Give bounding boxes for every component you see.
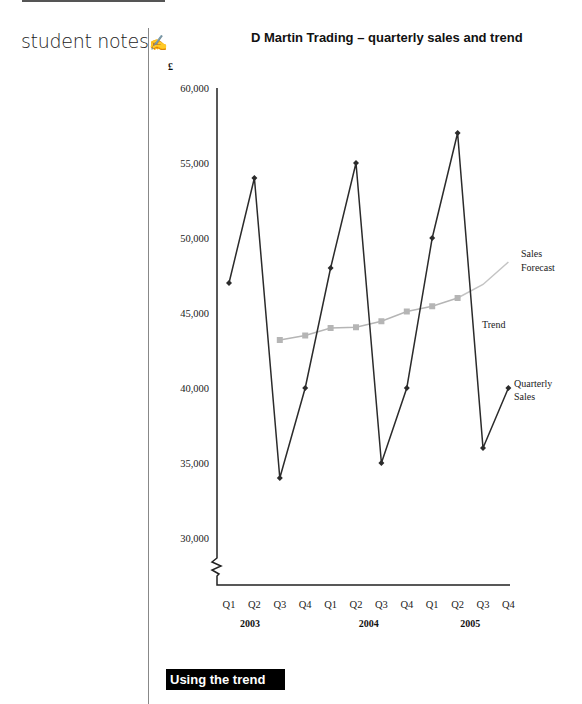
x-tick-label: Q1	[324, 599, 337, 610]
x-tick-label: Q4	[400, 599, 414, 610]
section-heading-banner: Using the trend	[166, 669, 285, 690]
series-line	[229, 133, 508, 478]
diamond-marker	[404, 385, 410, 391]
annotations: SalesForecastTrendQuarterlySales	[482, 248, 555, 402]
y-tick-label: 40,000	[180, 383, 209, 394]
y-tick-label: 50,000	[180, 233, 209, 244]
x-tick-label: Q2	[248, 599, 261, 610]
square-marker	[378, 318, 384, 324]
x-tick-label: Q3	[273, 599, 286, 610]
diamond-marker	[251, 175, 257, 181]
series-annotation: Forecast	[521, 262, 555, 273]
series-sales-forecast	[458, 262, 509, 298]
y-tick-label: 30,000	[180, 533, 209, 544]
square-marker	[404, 309, 410, 315]
axis-lines	[212, 88, 510, 585]
x-tick-label: Q2	[350, 599, 363, 610]
year-label: 2003	[240, 618, 260, 629]
x-tick-label: Q3	[477, 599, 490, 610]
square-marker	[277, 337, 283, 343]
series-line	[458, 262, 509, 298]
year-label: 2005	[460, 618, 480, 629]
x-axis-ticks: Q1Q2Q3Q4Q1Q2Q3Q4Q1Q2Q3Q4200320042005	[223, 599, 516, 629]
square-marker	[429, 303, 435, 309]
series-group	[226, 130, 511, 481]
diamond-marker	[226, 280, 232, 286]
diamond-marker	[480, 445, 486, 451]
series-annotation: Quarterly	[514, 378, 552, 389]
diamond-marker	[328, 265, 334, 271]
square-marker	[328, 325, 334, 331]
diamond-marker	[429, 235, 435, 241]
diamond-marker	[302, 385, 308, 391]
y-tick-label: 35,000	[180, 458, 209, 469]
diamond-marker	[378, 460, 384, 466]
x-tick-label: Q4	[502, 599, 516, 610]
x-tick-label: Q2	[451, 599, 464, 610]
diamond-marker	[455, 130, 461, 136]
y-tick-label: 55,000	[180, 158, 209, 169]
line-chart: £ 30,00035,00040,00045,00050,00055,00060…	[0, 0, 582, 704]
diamond-marker	[353, 160, 359, 166]
series-quarterly-sales	[226, 130, 511, 481]
y-tick-label: 60,000	[180, 83, 209, 94]
square-marker	[302, 333, 308, 339]
diamond-marker	[505, 385, 511, 391]
x-tick-label: Q3	[375, 599, 388, 610]
series-annotation: Sales	[521, 248, 542, 259]
square-marker	[455, 295, 461, 301]
series-annotation: Trend	[482, 319, 506, 330]
series-annotation: Sales	[514, 391, 535, 402]
year-label: 2004	[359, 618, 379, 629]
x-tick-label: Q1	[223, 599, 236, 610]
y-tick-label: 45,000	[180, 308, 209, 319]
y-axis-label: £	[168, 61, 173, 72]
square-marker	[353, 324, 359, 330]
y-axis-ticks: 30,00035,00040,00045,00050,00055,00060,0…	[180, 83, 209, 544]
x-tick-label: Q1	[426, 599, 439, 610]
x-tick-label: Q4	[299, 599, 313, 610]
diamond-marker	[277, 475, 283, 481]
